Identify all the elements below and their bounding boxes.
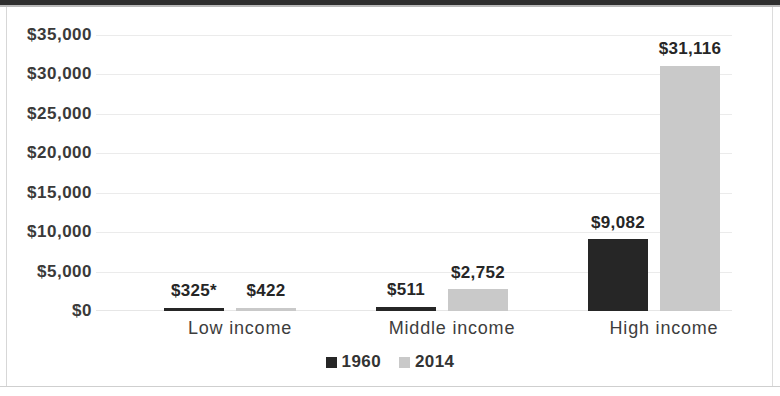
bar-label-middle-income-2014: $2,752 bbox=[425, 263, 531, 283]
bar-high-income-2014[interactable] bbox=[660, 66, 720, 311]
x-axis-label-low-income: Low income bbox=[144, 318, 336, 339]
y-tick-0: $0 bbox=[0, 301, 92, 321]
page-bottom-border bbox=[0, 386, 780, 387]
legend-label-2014: 2014 bbox=[415, 352, 454, 372]
bar-label-high-income-1960: $9,082 bbox=[559, 213, 677, 233]
bar-low-income-2014[interactable] bbox=[236, 308, 296, 311]
bar-middle-income-1960[interactable] bbox=[376, 307, 436, 311]
chart-legend: 1960 2014 bbox=[0, 352, 780, 372]
y-tick-35000: $35,000 bbox=[0, 25, 92, 45]
x-axis-label-middle-income: Middle income bbox=[356, 318, 548, 339]
bar-group-low-income: $325* $422 bbox=[144, 35, 336, 311]
plot-area: $325* $422 $511 $2,752 $9,082 $31,116 bbox=[96, 35, 732, 311]
legend-item-1960[interactable]: 1960 bbox=[326, 352, 381, 372]
bar-high-income-1960[interactable] bbox=[588, 239, 648, 311]
bar-low-income-1960[interactable] bbox=[164, 308, 224, 311]
y-tick-30000: $30,000 bbox=[0, 64, 92, 84]
y-tick-20000: $20,000 bbox=[0, 143, 92, 163]
y-tick-15000: $15,000 bbox=[0, 183, 92, 203]
bar-label-high-income-2014: $31,116 bbox=[626, 39, 754, 59]
page-top-edge-soft bbox=[0, 5, 780, 7]
bar-label-low-income-2014: $422 bbox=[222, 281, 310, 301]
bar-label-middle-income-1960: $511 bbox=[350, 280, 462, 300]
page-right-border bbox=[772, 7, 773, 387]
legend-swatch-1960-icon bbox=[326, 357, 337, 368]
y-tick-25000: $25,000 bbox=[0, 104, 92, 124]
x-axis-label-high-income: High income bbox=[568, 318, 760, 339]
legend-swatch-2014-icon bbox=[399, 357, 410, 368]
y-axis: $35,000 $30,000 $25,000 $20,000 $15,000 … bbox=[0, 35, 92, 311]
legend-label-1960: 1960 bbox=[342, 352, 381, 372]
y-tick-5000: $5,000 bbox=[0, 262, 92, 282]
bar-group-middle-income: $511 $2,752 bbox=[356, 35, 548, 311]
bar-group-high-income: $9,082 $31,116 bbox=[568, 35, 760, 311]
chart-figure: $35,000 $30,000 $25,000 $20,000 $15,000 … bbox=[0, 0, 780, 396]
legend-item-2014[interactable]: 2014 bbox=[399, 352, 454, 372]
y-tick-10000: $10,000 bbox=[0, 222, 92, 242]
